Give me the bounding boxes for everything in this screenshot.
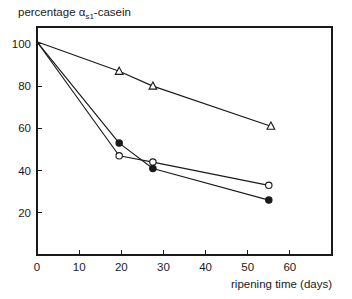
y-tick-label-100: 100 (12, 38, 31, 50)
data-point-filled-circle-series-1 (116, 140, 122, 146)
y-axis-ticks (37, 44, 42, 213)
x-tick-label-40: 40 (199, 261, 212, 273)
data-point-open-circle-series-1 (116, 153, 122, 159)
x-tick-label-60: 60 (283, 261, 296, 273)
y-tick-label-80: 80 (18, 80, 31, 92)
y-tick-label-20: 20 (18, 207, 31, 219)
x-axis-ticks (37, 250, 290, 255)
chart-title: percentage αs1-casein (18, 6, 131, 21)
series-line-filled-circle-series (37, 42, 269, 200)
x-tick-label-50: 50 (241, 261, 254, 273)
y-axis-tick-labels: 20406080100 (12, 38, 31, 219)
chart-title-main: percentage α (18, 6, 86, 18)
y-tick-label-60: 60 (18, 122, 31, 134)
x-tick-label-20: 20 (115, 261, 128, 273)
chart-figure: percentage αs1-casein 20406080100 010203… (0, 0, 352, 299)
data-point-open-circle-series-3 (266, 182, 272, 188)
x-tick-label-0: 0 (34, 261, 40, 273)
x-tick-label-10: 10 (73, 261, 86, 273)
chart-title-tail: -casein (94, 6, 131, 18)
y-tick-label-40: 40 (18, 165, 31, 177)
data-series-layer (37, 42, 275, 204)
data-point-open-circle-series-2 (150, 159, 156, 165)
x-axis-title: ripening time (days) (231, 278, 332, 290)
data-point-filled-circle-series-2 (150, 165, 156, 171)
casein-degradation-line-chart: percentage αs1-casein 20406080100 010203… (0, 0, 352, 299)
plot-frame (37, 27, 332, 255)
x-tick-label-30: 30 (157, 261, 170, 273)
data-point-filled-circle-series-3 (266, 197, 272, 203)
x-axis-tick-labels: 0102030405060 (34, 261, 296, 273)
